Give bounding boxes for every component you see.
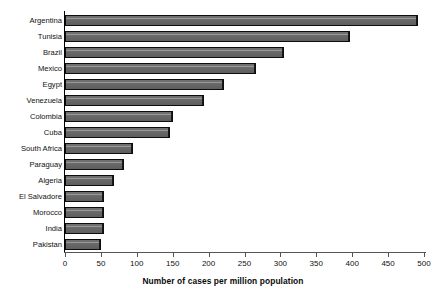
x-tick-mark-350	[316, 252, 317, 257]
category-label-colombia: Colombia	[0, 112, 65, 121]
bar-cuba	[65, 127, 170, 138]
bar-fill	[65, 47, 284, 58]
x-tick-mark-500	[424, 252, 425, 257]
category-label-south-africa: South Africa	[0, 144, 65, 153]
category-label-paraguay: Paraguay	[0, 160, 65, 169]
x-tick-label-450: 450	[373, 259, 403, 268]
x-tick-label-0: 0	[50, 259, 80, 268]
x-tick-mark-200	[209, 252, 210, 257]
bar-paraguay	[65, 159, 124, 170]
category-label-cuba: Cuba	[0, 128, 65, 137]
bar-fill	[65, 159, 124, 170]
bar-fill	[65, 175, 114, 186]
bar-fill	[65, 95, 204, 106]
bar-fill	[65, 239, 101, 250]
bar-egypt	[65, 79, 224, 90]
bar-fill	[65, 207, 104, 218]
bar-south-africa	[65, 143, 133, 154]
x-tick-mark-400	[352, 252, 353, 257]
x-axis-title: Number of cases per million population	[0, 276, 446, 286]
bar-venezuela	[65, 95, 204, 106]
bar-india	[65, 223, 104, 234]
bar-fill	[65, 223, 104, 234]
bar-fill	[65, 143, 133, 154]
category-label-brazil: Brazil	[0, 48, 65, 57]
category-label-egypt: Egypt	[0, 80, 65, 89]
x-tick-label-500: 500	[409, 259, 439, 268]
x-tick-label-300: 300	[265, 259, 295, 268]
x-tick-mark-150	[173, 252, 174, 257]
category-label-pakistan: Pakistan	[0, 240, 65, 249]
x-tick-mark-50	[101, 252, 102, 257]
bar-fill	[65, 79, 224, 90]
x-tick-mark-0	[65, 252, 66, 257]
bar-fill	[65, 15, 418, 26]
category-label-venezuela: Venezuela	[0, 96, 65, 105]
category-label-el-salvadore: El Salvadore	[0, 192, 65, 201]
bar-fill	[65, 111, 173, 122]
bar-morocco	[65, 207, 104, 218]
bar-chart: ArgentinaTunisiaBrazilMexicoEgyptVenezue…	[0, 0, 446, 297]
x-tick-label-200: 200	[194, 259, 224, 268]
bar-algeria	[65, 175, 114, 186]
x-tick-mark-300	[280, 252, 281, 257]
bar-mexico	[65, 63, 256, 74]
bar-fill	[65, 127, 170, 138]
x-tick-label-100: 100	[122, 259, 152, 268]
bar-fill	[65, 63, 256, 74]
category-label-argentina: Argentina	[0, 16, 65, 25]
x-tick-label-400: 400	[337, 259, 367, 268]
bar-pakistan	[65, 239, 101, 250]
x-tick-label-350: 350	[301, 259, 331, 268]
x-tick-mark-100	[137, 252, 138, 257]
category-label-mexico: Mexico	[0, 64, 65, 73]
category-label-morocco: Morocco	[0, 208, 65, 217]
bar-el-salvadore	[65, 191, 104, 202]
x-tick-label-50: 50	[86, 259, 116, 268]
x-tick-mark-250	[245, 252, 246, 257]
bar-colombia	[65, 111, 173, 122]
category-label-india: India	[0, 224, 65, 233]
bar-brazil	[65, 47, 284, 58]
category-label-algeria: Algeria	[0, 176, 65, 185]
bar-argentina	[65, 15, 418, 26]
x-tick-label-250: 250	[230, 259, 260, 268]
bar-tunisia	[65, 31, 350, 42]
bar-fill	[65, 191, 104, 202]
category-label-tunisia: Tunisia	[0, 32, 65, 41]
x-tick-mark-450	[388, 252, 389, 257]
x-tick-label-150: 150	[158, 259, 188, 268]
bar-fill	[65, 31, 350, 42]
